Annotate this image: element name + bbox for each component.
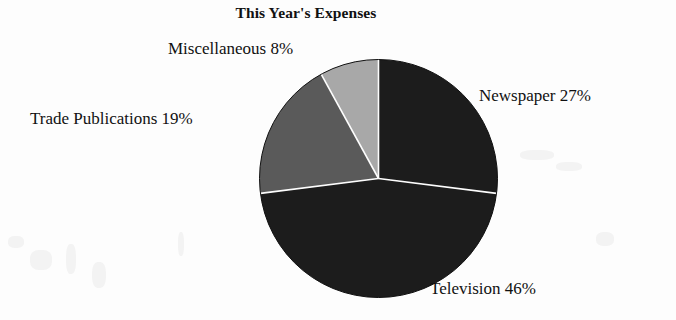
- scan-artifact: [520, 150, 554, 160]
- scan-artifact: [556, 162, 582, 171]
- pie-label-television: Television 46%: [430, 278, 536, 299]
- pie-slice-newspaper[interactable]: [379, 60, 498, 194]
- pie-label-miscellaneous: Miscellaneous 8%: [168, 38, 293, 59]
- scan-artifact: [92, 262, 106, 288]
- scan-artifact: [596, 232, 614, 246]
- scan-artifact: [66, 244, 76, 274]
- scan-artifact: [8, 236, 24, 248]
- scan-artifact: [30, 250, 52, 270]
- pie-chart-graphic: [259, 59, 499, 299]
- pie-label-trade-publications: Trade Publications 19%: [30, 108, 193, 129]
- pie-label-newspaper: Newspaper 27%: [479, 85, 591, 106]
- scan-artifact: [178, 232, 184, 256]
- chart-title: This Year's Expenses: [0, 3, 644, 23]
- pie-chart-figure: This Year's Expenses Miscellaneous 8% Tr…: [0, 0, 676, 320]
